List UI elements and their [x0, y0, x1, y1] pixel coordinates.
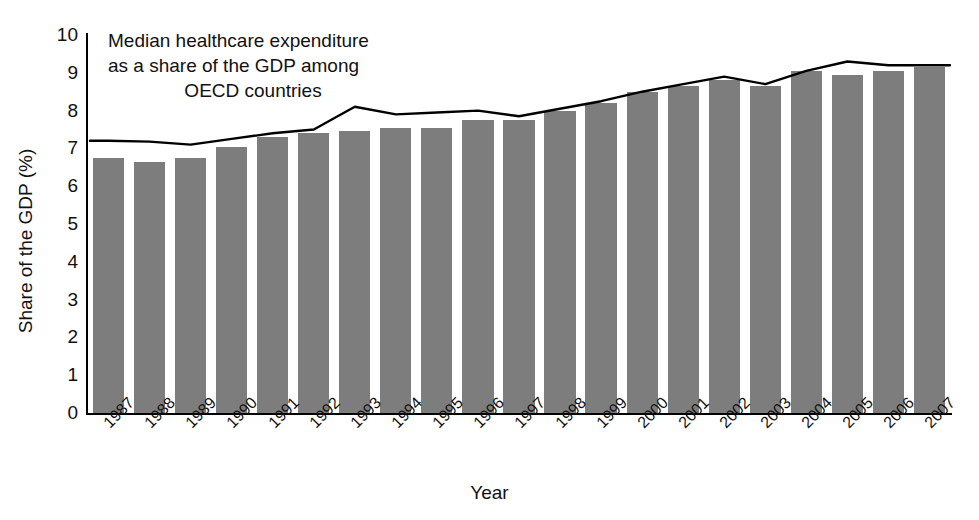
bar-1995	[421, 128, 452, 413]
bar-2003	[750, 86, 781, 413]
bar-2006	[873, 71, 904, 413]
y-tick-0: 0	[38, 403, 78, 422]
bar-1991	[257, 137, 288, 413]
bar-2001	[668, 86, 699, 413]
bars-layer	[88, 35, 950, 413]
bar-1994	[380, 128, 411, 413]
x-axis-label: Year	[0, 482, 979, 504]
y-tick-8: 8	[38, 101, 78, 120]
bar-2002	[709, 80, 740, 413]
y-tick-2: 2	[38, 327, 78, 346]
y-axis-label: Share of the GDP (%)	[15, 71, 37, 411]
bar-2004	[791, 71, 822, 413]
bar-1996	[462, 120, 493, 413]
bar-1988	[134, 162, 165, 413]
bar-1992	[298, 133, 329, 413]
y-tick-1: 1	[38, 365, 78, 384]
bar-2000	[627, 92, 658, 413]
bar-1998	[544, 111, 575, 413]
bar-1990	[216, 147, 247, 413]
y-tick-9: 9	[38, 63, 78, 82]
bar-1999	[585, 103, 616, 413]
y-axis-label-wrapper: Share of the GDP (%)	[10, 60, 40, 360]
y-tick-5: 5	[38, 214, 78, 233]
bar-1993	[339, 131, 370, 413]
y-tick-4: 4	[38, 252, 78, 271]
y-tick-7: 7	[38, 138, 78, 157]
y-tick-10: 10	[38, 25, 78, 44]
y-tick-6: 6	[38, 176, 78, 195]
bar-1989	[175, 158, 206, 413]
bar-1987	[93, 158, 124, 413]
chart-container: Share of the GDP (%) 012345678910 Median…	[0, 0, 979, 520]
bar-1997	[503, 120, 534, 413]
y-tick-3: 3	[38, 290, 78, 309]
bar-2007	[914, 67, 945, 413]
bar-2005	[832, 75, 863, 413]
